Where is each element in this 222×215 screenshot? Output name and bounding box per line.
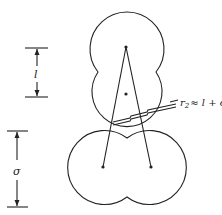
triangle-left-edge	[103, 47, 126, 167]
l-label: l	[34, 68, 38, 81]
triangle-right-edge	[126, 47, 151, 167]
sigma-label: σ	[13, 165, 21, 178]
upper-center-dot	[124, 45, 127, 48]
middle-center-dot	[124, 92, 127, 95]
sigma-arrow-down-icon	[15, 200, 20, 206]
r2-expression: ≈ l + σ	[190, 97, 222, 108]
sigma-arrow-up-icon	[15, 132, 20, 138]
r2-leader-tick	[170, 100, 178, 102]
r2-subscript: 2	[184, 102, 190, 110]
r2-leader-line	[113, 104, 176, 122]
lower-left-center-dot	[101, 165, 104, 168]
l-arrow-up-icon	[35, 49, 40, 55]
lower-molecule-outline	[68, 131, 187, 205]
r2-label: r2≈ l + σ	[180, 97, 222, 110]
lower-right-center-dot	[149, 165, 152, 168]
l-arrow-down-icon	[35, 90, 40, 96]
molecule-diagram: l σ r2≈ l + σ	[0, 0, 222, 215]
